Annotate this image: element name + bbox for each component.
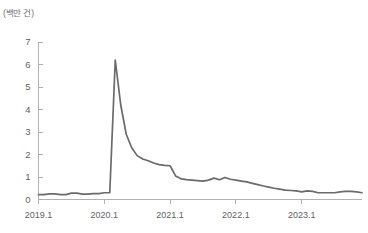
y-tick-label: 5 <box>25 81 30 92</box>
x-tick-label: 2019.1 <box>25 210 53 220</box>
x-tick-label: 2023.1 <box>288 210 316 220</box>
line-chart-plot: 01234567 2019.12020.12021.12022.12023.1 <box>0 0 368 233</box>
data-series-line <box>39 60 363 195</box>
y-tick-label: 1 <box>25 171 30 182</box>
y-tick-label: 6 <box>25 59 30 70</box>
y-tick-label: 7 <box>25 36 30 47</box>
x-tick-label: 2020.1 <box>91 210 119 220</box>
y-tick-label: 3 <box>25 126 30 137</box>
y-axis-ticks: 01234567 <box>25 36 42 205</box>
y-tick-label: 0 <box>25 194 30 205</box>
x-tick-label: 2022.1 <box>222 210 250 220</box>
x-tick-label: 2021.1 <box>156 210 184 220</box>
y-tick-label: 4 <box>25 104 30 115</box>
x-axis-ticks: 2019.12020.12021.12022.12023.1 <box>25 200 316 220</box>
chart-container: (백만 건) 01234567 2019.12020.12021.12022.1… <box>0 0 368 233</box>
y-tick-label: 2 <box>25 149 30 160</box>
